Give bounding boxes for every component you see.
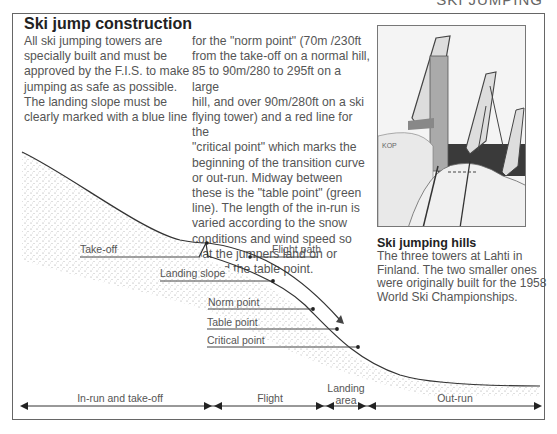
table-point-label: Table point	[207, 316, 258, 328]
flight-path-label: Flight path	[272, 243, 321, 255]
hill-stipple	[22, 152, 540, 396]
segment-out-run-label: Out-run	[420, 392, 490, 404]
segment-landing-area-label: Landing area	[326, 382, 366, 406]
take-off-label: Take-off	[80, 243, 117, 255]
segment-in-run-label: In-run and take-off	[70, 392, 170, 404]
landing-slope-label: Landing slope	[160, 267, 225, 279]
segment-flight-label: Flight	[240, 392, 300, 404]
critical-point-label: Critical point	[207, 334, 265, 346]
ski-jump-profile-diagram	[0, 0, 557, 434]
norm-point-label: Norm point	[208, 296, 259, 308]
